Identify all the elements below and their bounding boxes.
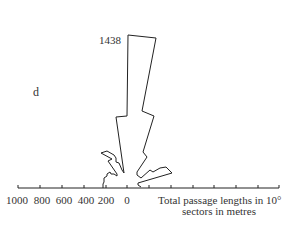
tick-label-800: 800 (34, 195, 51, 206)
tick-label-0: 0 (124, 195, 130, 206)
rose-petals-outline (101, 35, 172, 188)
axis-title-line-2: sectors in metres (182, 206, 256, 217)
tick-label-1000: 1000 (6, 195, 28, 206)
tick-label-600: 600 (56, 195, 73, 206)
peak-value-label: 1438 (99, 35, 121, 46)
rose-diagram-figure: 1438 d 1000 800 600 400 200 0 Total pass… (0, 0, 296, 229)
tick-label-200: 200 (98, 195, 115, 206)
tick-label-400: 400 (78, 195, 95, 206)
panel-label: d (33, 87, 39, 98)
